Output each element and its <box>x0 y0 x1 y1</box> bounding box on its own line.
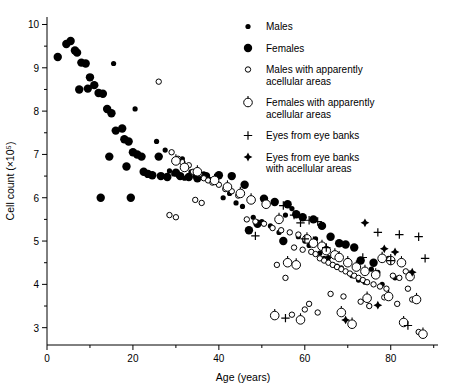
data-point <box>337 306 346 317</box>
data-point <box>127 194 135 202</box>
data-point <box>296 232 301 237</box>
data-point <box>111 61 116 66</box>
data-point <box>75 85 83 93</box>
data-point <box>395 230 403 238</box>
data-point <box>363 292 372 303</box>
data-point <box>228 172 236 180</box>
data-point <box>275 213 284 224</box>
data-point <box>169 150 174 155</box>
legend-marker-0 <box>245 24 250 29</box>
axes-layer <box>47 17 438 345</box>
data-point <box>244 217 249 222</box>
data-point <box>341 240 349 248</box>
x-tick-label: 0 <box>44 353 50 364</box>
data-point <box>199 200 204 205</box>
data-point <box>412 293 421 304</box>
plot-legend: MalesFemalesMales with apparentlyacellul… <box>244 21 375 174</box>
data-point <box>233 200 238 205</box>
data-point <box>163 173 171 181</box>
data-point <box>367 303 372 308</box>
data-point <box>251 232 259 240</box>
data-point <box>343 256 352 267</box>
legend-marker-2 <box>245 67 250 72</box>
data-point <box>377 284 382 289</box>
data-point <box>283 212 288 217</box>
data-point <box>124 137 132 145</box>
data-point <box>137 152 145 160</box>
data-point <box>405 286 410 291</box>
data-point <box>281 314 289 322</box>
data-point <box>163 147 168 152</box>
data-point <box>302 307 307 312</box>
x-tick-label: 40 <box>213 353 225 364</box>
data-point <box>414 233 422 241</box>
data-point <box>283 275 288 280</box>
data-point <box>328 291 333 296</box>
data-point <box>132 106 137 111</box>
data-point <box>300 247 305 252</box>
y-tick-label: 8 <box>33 106 39 117</box>
legend-label-1: Females <box>266 43 304 54</box>
data-point <box>167 212 172 217</box>
data-point <box>361 265 370 276</box>
legend-label-3: acellular areas <box>266 109 331 120</box>
legend-marker-1 <box>244 44 252 52</box>
data-point <box>292 258 301 269</box>
data-point <box>350 243 358 251</box>
data-point <box>296 313 305 324</box>
legend-label-3: Females with apparently <box>266 97 374 108</box>
data-point <box>283 256 292 267</box>
data-point <box>156 79 161 84</box>
legend-marker-5 <box>244 153 253 162</box>
data-point <box>193 165 202 176</box>
data-point <box>374 228 382 236</box>
data-point <box>245 226 253 234</box>
data-point <box>289 312 294 317</box>
data-point <box>253 219 258 224</box>
data-point <box>122 162 130 170</box>
legend-marker-3 <box>244 96 253 107</box>
data-point <box>261 221 266 226</box>
legend-marker-4 <box>244 131 252 139</box>
data-point <box>86 73 94 81</box>
data-point <box>107 109 115 117</box>
data-point <box>247 193 256 204</box>
data-point <box>315 310 320 315</box>
data-point <box>193 197 198 202</box>
data-point <box>270 309 279 320</box>
data-point <box>271 198 279 206</box>
data-point <box>287 230 292 235</box>
x-tick-label: 80 <box>385 353 397 364</box>
data-point <box>421 254 429 262</box>
legend-label-2: acellular areas <box>266 76 331 87</box>
legend-label-2: Males with apparently <box>266 64 363 75</box>
data-point <box>99 90 107 98</box>
y-tick-label: 9 <box>33 63 39 74</box>
y-tick-label: 10 <box>28 19 40 30</box>
data-point <box>371 282 376 287</box>
y-tick-label: 6 <box>33 193 39 204</box>
data-point <box>283 200 291 208</box>
axis-frame <box>47 17 438 345</box>
data-point <box>240 204 245 209</box>
data-point <box>73 48 81 56</box>
data-point <box>397 256 406 267</box>
data-point <box>373 301 382 310</box>
data-point <box>291 245 296 250</box>
data-point <box>240 181 248 189</box>
data-point <box>81 59 89 67</box>
data-point <box>66 37 74 45</box>
x-tick-label: 60 <box>299 353 311 364</box>
data-point <box>348 318 357 329</box>
data-point <box>279 237 287 245</box>
data-point <box>221 195 226 200</box>
data-points-layer <box>54 37 430 339</box>
data-point <box>318 222 326 230</box>
data-point <box>173 215 178 220</box>
data-point <box>148 171 156 179</box>
y-tick-label: 7 <box>33 149 39 160</box>
legend-label-5: with acellular areas <box>265 163 352 174</box>
data-point <box>84 84 92 92</box>
data-point <box>361 218 370 227</box>
data-point <box>118 124 126 132</box>
